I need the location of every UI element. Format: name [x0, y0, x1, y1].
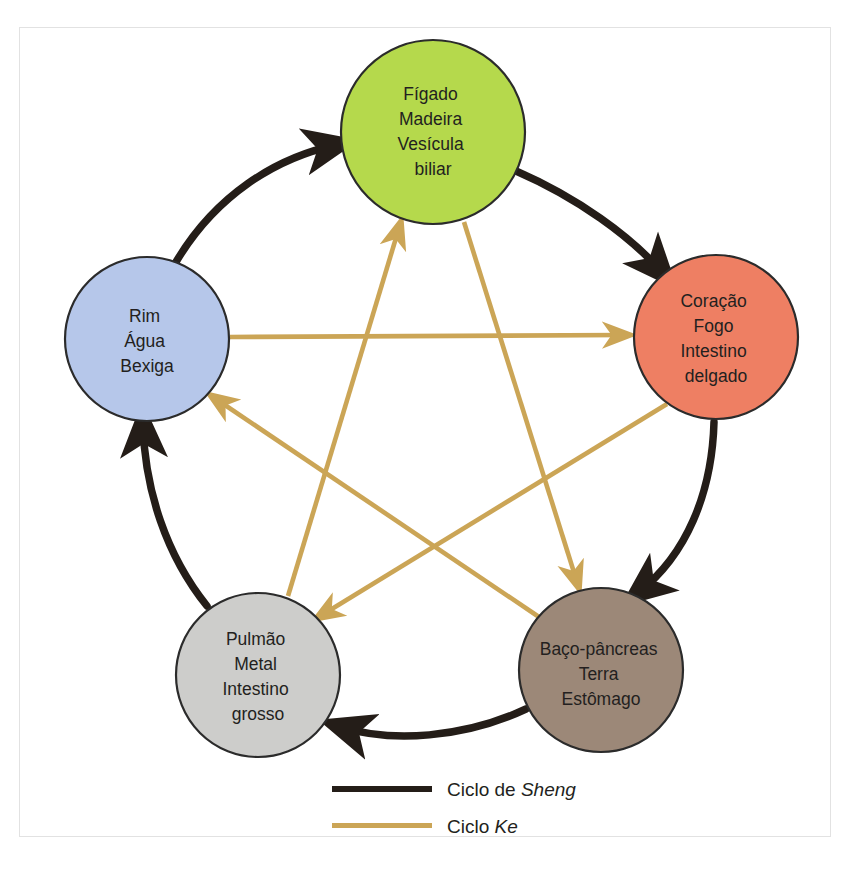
node-water-line-0: Rim	[129, 306, 160, 326]
node-fire-line-3: delgado	[685, 366, 747, 386]
element-nodes: Fígado Madeira Vesícula biliar Coração F…	[65, 40, 798, 757]
five-elements-diagram: Fígado Madeira Vesícula biliar Coração F…	[0, 0, 854, 872]
sheng-edge-water-wood	[176, 145, 336, 262]
node-fire-line-0: Coração	[680, 291, 746, 311]
node-metal-line-2: Intestino	[222, 679, 288, 699]
sheng-edge-earth-metal	[341, 709, 526, 736]
node-fire-line-2: Intestino	[680, 341, 746, 361]
node-earth[interactable]: Baço-pâncreas Terra Estômago	[519, 588, 683, 752]
ke-edge-wood-earth	[464, 222, 577, 582]
sheng-edge-fire-earth	[639, 422, 714, 592]
node-fire-line-1: Fogo	[694, 316, 734, 336]
node-fire[interactable]: Coração Fogo Intestino delgado	[634, 255, 798, 419]
node-wood-line-0: Fígado	[403, 84, 457, 104]
ke-cycle-edges	[216, 222, 667, 617]
legend-label-ke: Ciclo Ke	[447, 816, 518, 837]
legend-item-sheng: Ciclo de Sheng	[332, 779, 576, 800]
ke-edge-earth-water	[216, 399, 539, 617]
legend-swatch-ke-line	[332, 823, 432, 828]
legend: Ciclo de Sheng Ciclo Ke	[332, 779, 576, 837]
legend-label-sheng: Ciclo de Sheng	[447, 779, 576, 800]
node-earth-line-2: Estômago	[562, 689, 641, 709]
legend-label-ke-emphasis: Ke	[495, 816, 518, 837]
node-wood-line-1: Madeira	[399, 109, 462, 129]
node-wood-line-2: Vesícula	[397, 134, 463, 154]
node-metal-line-3: grosso	[232, 704, 285, 724]
node-earth-line-1: Terra	[579, 664, 619, 684]
node-water-line-2: Bexiga	[120, 356, 174, 376]
node-wood-circle[interactable]	[341, 40, 525, 224]
figure-root: Fígado Madeira Vesícula biliar Coração F…	[0, 0, 854, 872]
legend-item-ke: Ciclo Ke	[332, 816, 518, 837]
node-metal-circle[interactable]	[176, 593, 340, 757]
node-earth-line-0: Baço-pâncreas	[540, 639, 658, 659]
node-water[interactable]: Rim Água Bexiga	[65, 257, 229, 421]
ke-edge-fire-metal	[322, 404, 667, 615]
node-water-line-1: Água	[124, 331, 165, 351]
node-fire-circle[interactable]	[634, 255, 798, 419]
legend-label-sheng-prefix: Ciclo de	[447, 779, 521, 800]
ke-edge-water-fire	[230, 335, 623, 337]
node-wood-line-3: biliar	[415, 159, 452, 179]
node-metal-line-0: Pulmão	[226, 629, 285, 649]
sheng-edge-metal-water	[143, 425, 207, 606]
legend-label-ke-prefix: Ciclo	[447, 816, 495, 837]
node-metal-line-1: Metal	[234, 654, 277, 674]
node-metal[interactable]: Pulmão Metal Intestino grosso	[176, 593, 340, 757]
ke-edge-metal-wood	[288, 228, 399, 596]
legend-label-sheng-emphasis: Sheng	[521, 779, 576, 800]
legend-swatch-sheng-line	[332, 786, 432, 792]
sheng-edge-wood-fire	[516, 171, 662, 272]
node-wood[interactable]: Fígado Madeira Vesícula biliar	[341, 40, 525, 224]
